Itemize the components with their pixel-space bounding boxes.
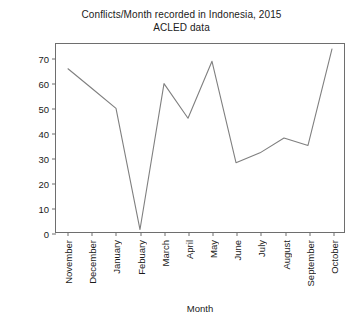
x-axis-tick-mark bbox=[116, 232, 117, 236]
x-axis-tick-label: June bbox=[232, 240, 243, 261]
x-axis-tick-label: January bbox=[111, 240, 122, 274]
chart-figure: Conflicts/Month recorded in Indonesia, 2… bbox=[0, 0, 363, 327]
y-axis-tick: 0 bbox=[44, 229, 56, 240]
x-axis-tick: June bbox=[232, 232, 243, 261]
x-axis-tick: September bbox=[304, 232, 315, 286]
y-axis-tick-mark bbox=[52, 59, 56, 60]
x-axis-tick-mark bbox=[333, 232, 334, 236]
x-axis-tick-label: July bbox=[256, 240, 267, 257]
x-axis-tick-mark bbox=[237, 232, 238, 236]
x-axis-tick-label: October bbox=[328, 240, 339, 274]
y-axis-tick-mark bbox=[52, 209, 56, 210]
y-axis-tick: 10 bbox=[38, 204, 56, 215]
y-axis-tick-label: 30 bbox=[38, 154, 52, 165]
x-axis-tick-mark bbox=[164, 232, 165, 236]
x-axis-tick-label: August bbox=[280, 240, 291, 270]
y-axis-tick: 20 bbox=[38, 179, 56, 190]
chart-title-block: Conflicts/Month recorded in Indonesia, 2… bbox=[0, 8, 363, 34]
x-axis-tick-label: April bbox=[183, 240, 194, 259]
x-axis-tick-label: Febuary bbox=[135, 240, 146, 275]
y-axis-tick-label: 50 bbox=[38, 104, 52, 115]
x-axis-tick-label: March bbox=[159, 240, 170, 266]
x-axis-tick: October bbox=[328, 232, 339, 274]
x-axis-tick-label: September bbox=[304, 240, 315, 286]
y-axis-tick: 30 bbox=[38, 154, 56, 165]
y-axis-tick-mark bbox=[52, 184, 56, 185]
y-axis-tick-mark bbox=[52, 109, 56, 110]
x-axis-tick-mark bbox=[140, 232, 141, 236]
x-axis-tick: December bbox=[87, 232, 98, 284]
line-series bbox=[56, 44, 344, 232]
x-axis-tick-mark bbox=[188, 232, 189, 236]
x-axis-tick-mark bbox=[285, 232, 286, 236]
y-axis-tick: 70 bbox=[38, 54, 56, 65]
y-axis-tick-mark bbox=[52, 159, 56, 160]
y-axis-tick-mark bbox=[52, 84, 56, 85]
x-axis-tick-mark bbox=[309, 232, 310, 236]
y-axis-tick-label: 60 bbox=[38, 79, 52, 90]
x-axis-tick-label: November bbox=[63, 240, 74, 284]
x-axis-tick: August bbox=[280, 232, 291, 270]
chart-title: Conflicts/Month recorded in Indonesia, 2… bbox=[0, 8, 363, 21]
y-axis-tick-label: 70 bbox=[38, 54, 52, 65]
x-axis-tick-mark bbox=[92, 232, 93, 236]
x-axis-title: Month bbox=[55, 303, 345, 314]
y-axis-tick: 40 bbox=[38, 129, 56, 140]
y-axis-tick: 60 bbox=[38, 79, 56, 90]
y-axis-tick-label: 40 bbox=[38, 129, 52, 140]
x-axis-tick-label: December bbox=[87, 240, 98, 284]
x-axis-tick: July bbox=[256, 232, 267, 257]
x-axis-tick: November bbox=[63, 232, 74, 284]
x-axis-tick: May bbox=[208, 232, 219, 258]
y-axis-tick-label: 20 bbox=[38, 179, 52, 190]
x-axis-tick-mark bbox=[68, 232, 69, 236]
x-axis-tick: January bbox=[111, 232, 122, 274]
y-axis-tick-label: 0 bbox=[44, 229, 52, 240]
x-axis-tick: Febuary bbox=[135, 232, 146, 275]
x-axis-tick-mark bbox=[261, 232, 262, 236]
x-axis-tick-mark bbox=[213, 232, 214, 236]
x-axis-tick-label: May bbox=[208, 240, 219, 258]
y-axis-tick-label: 10 bbox=[38, 204, 52, 215]
y-axis-tick-mark bbox=[52, 234, 56, 235]
chart-subtitle: ACLED data bbox=[0, 21, 363, 34]
y-axis-tick: 50 bbox=[38, 104, 56, 115]
x-axis-tick: March bbox=[159, 232, 170, 266]
x-axis-tick: April bbox=[183, 232, 194, 259]
plot-area: 010203040506070NovemberDecemberJanuaryFe… bbox=[55, 43, 345, 233]
y-axis-tick-mark bbox=[52, 134, 56, 135]
